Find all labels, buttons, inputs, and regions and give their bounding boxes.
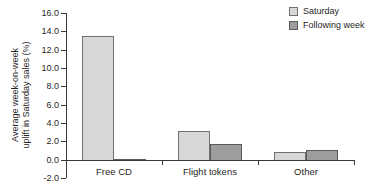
y-tick-label: 0.0 — [28, 155, 59, 165]
y-tick — [61, 178, 66, 179]
x-category-label: Free CD — [69, 166, 159, 177]
y-tick — [61, 86, 66, 87]
x-axis-tick — [162, 160, 163, 165]
x-axis-line — [66, 160, 354, 161]
legend: SaturdayFollowing week — [289, 6, 365, 34]
y-tick-label: 16.0 — [28, 8, 59, 18]
y-tick-label: 8.0 — [28, 81, 59, 91]
legend-swatch-icon — [289, 21, 298, 30]
y-tick-label: 4.0 — [28, 118, 59, 128]
bar-chart: Average week-on-week uplift in Saturday … — [0, 0, 365, 194]
legend-item-following-week: Following week — [289, 20, 365, 30]
bar-flight-tokens-following-week — [210, 144, 242, 161]
legend-label: Saturday — [303, 6, 339, 16]
y-tick — [61, 141, 66, 142]
y-tick-label: 6.0 — [28, 100, 59, 110]
bar-free-cd-saturday — [82, 36, 114, 161]
y-tick — [61, 68, 66, 69]
x-category-label: Other — [261, 166, 351, 177]
legend-label: Following week — [303, 20, 365, 30]
y-tick — [61, 13, 66, 14]
y-tick — [61, 123, 66, 124]
legend-swatch-icon — [289, 7, 298, 16]
y-tick-label: 2.0 — [28, 136, 59, 146]
x-axis-tick — [354, 160, 355, 165]
bar-flight-tokens-saturday — [178, 131, 210, 161]
y-tick-label: 10.0 — [28, 63, 59, 73]
y-tick — [61, 105, 66, 106]
y-tick-label: 12.0 — [28, 45, 59, 55]
x-axis-tick — [258, 160, 259, 165]
y-axis-line — [66, 13, 67, 178]
y-tick — [61, 31, 66, 32]
x-category-label: Flight tokens — [165, 166, 255, 177]
y-tick-label: 14.0 — [28, 26, 59, 36]
legend-item-saturday: Saturday — [289, 6, 365, 16]
y-tick-label: -2.0 — [28, 173, 59, 183]
y-tick — [61, 50, 66, 51]
